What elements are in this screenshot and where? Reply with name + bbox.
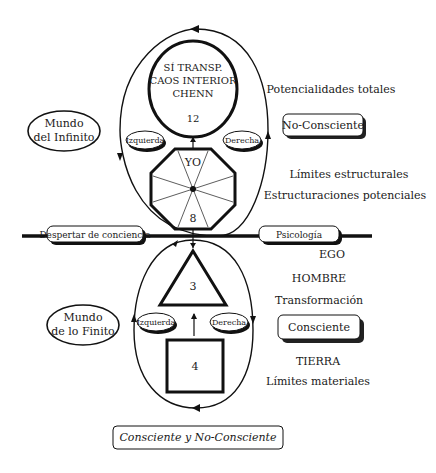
diagram-canvas: SÍ TRANSP. CAOS INTERIOR CHENN 12 YO 8 I… <box>0 0 436 473</box>
conscious-label: Consciente <box>288 321 350 334</box>
top-circle-number: 12 <box>187 113 200 124</box>
oval-lower-left-label: Izquierda <box>137 318 176 327</box>
octagon-label: YO <box>184 156 201 169</box>
transformation-label: Transformación <box>275 294 363 307</box>
psychology-label: Psicología <box>276 230 323 240</box>
oval-upper-right-label: Derecha <box>225 136 259 145</box>
no-conscious-label: No-Consciente <box>282 119 364 132</box>
oval-lower-left: Izquierda <box>137 313 177 334</box>
finite-world-line1: Mundo <box>63 311 102 324</box>
top-circle-line1: SÍ TRANSP. <box>164 62 223 73</box>
oval-lower-right: Derecha <box>210 313 250 334</box>
square-number: 4 <box>192 360 199 373</box>
potentials-label: Potencialidades totales <box>267 83 396 96</box>
earth-label: TIERRA <box>296 355 341 368</box>
arrow-lower-top-icon <box>172 240 178 247</box>
arrow-right-up-icon <box>265 131 271 139</box>
awakening-label: Despertar de conciencia <box>39 230 151 240</box>
finite-world-line2: de lo Finito <box>51 325 115 338</box>
oval-finite-world: Mundo de lo Finito <box>47 305 119 345</box>
potential-structurings-label: Estructuraciones potenciales <box>264 189 427 202</box>
arrow-left-down-icon <box>117 153 123 161</box>
psychology-label-box: Psicología <box>259 226 342 245</box>
center-dot-icon <box>190 186 196 192</box>
infinite-world-line2: del Infinito <box>34 131 95 144</box>
top-circle-line3: CHENN <box>172 88 213 99</box>
conscious-box: Consciente <box>278 315 364 343</box>
arrow-up-lower-icon <box>191 313 197 319</box>
triangle: 3 <box>160 251 226 305</box>
octagon-number: 8 <box>190 212 197 225</box>
ego-label: EGO <box>319 248 345 261</box>
upper-loop <box>117 25 271 236</box>
top-circle: SÍ TRANSP. CAOS INTERIOR CHENN 12 <box>149 41 237 137</box>
infinite-world-line1: Mundo <box>44 117 83 130</box>
arrow-lower-bottom-icon <box>192 404 200 412</box>
awakening-label-box: Despertar de conciencia <box>39 226 151 245</box>
oval-infinite-world: Mundo del Infinito <box>28 111 100 151</box>
man-label: HOMBRE <box>292 272 346 285</box>
oval-upper-right: Derecha <box>223 131 263 152</box>
oval-lower-right-label: Derecha <box>212 318 246 327</box>
material-limits-label: Límites materiales <box>266 375 370 388</box>
oval-upper-left: Izquierda <box>126 131 166 152</box>
triangle-number: 3 <box>190 280 197 293</box>
arrow-lower-right-down-icon <box>250 316 256 324</box>
square: 4 <box>167 340 223 392</box>
top-circle-line2: CAOS INTERIOR <box>150 75 237 86</box>
arrow-down-small-icon <box>190 243 196 248</box>
no-conscious-box: No-Consciente <box>282 114 366 139</box>
arrow-top-icon <box>190 25 199 33</box>
footer-box: Consciente y No-Consciente <box>113 426 283 449</box>
octagon: YO 8 <box>151 149 235 229</box>
structural-limits-label: Límites estructurales <box>290 168 409 181</box>
oval-upper-left-label: Izquierda <box>126 136 165 145</box>
footer-label: Consciente y No-Consciente <box>119 431 277 444</box>
